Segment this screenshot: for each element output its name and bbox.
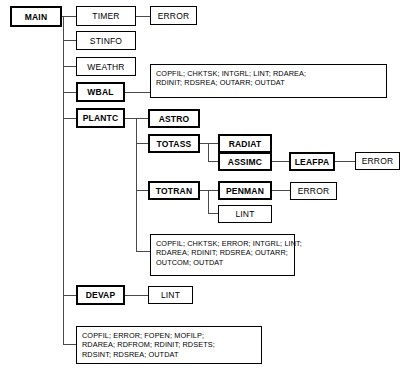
- utility-list-plantc-line-1: COPFIL; CHKTSK; ERROR; INTGRL; LINT;: [156, 239, 294, 248]
- connector-subbranch-to-radiat: [208, 143, 218, 144]
- utility-list-main-line-2: RDAREA; RDFROM; RDINIT; RDSETS;: [82, 340, 261, 349]
- node-lint-totran[interactable]: LINT: [218, 205, 272, 223]
- utility-list-main: COPFIL; ERROR; FOPEN; MOFILP; RDAREA; RD…: [76, 326, 262, 364]
- utility-list-plantc: COPFIL; CHKTSK; ERROR; INTGRL; LINT; RDA…: [150, 234, 295, 276]
- connector-trunk-to-wbal: [63, 92, 76, 93]
- utility-list-wbal-line-1: COPFIL; CHKTSK; INTGRL; LINT; RDAREA;: [156, 69, 386, 78]
- node-error-leafpa[interactable]: ERROR: [355, 152, 400, 170]
- node-leafpa[interactable]: LEAFPA: [289, 152, 335, 171]
- node-devap[interactable]: DEVAP: [76, 285, 125, 305]
- node-wbal[interactable]: WBAL: [76, 82, 125, 102]
- node-error-timer[interactable]: ERROR: [150, 6, 197, 25]
- connector-trunk-to-devap: [63, 295, 76, 296]
- connector-wbal-to-utilities: [125, 92, 150, 93]
- utility-list-wbal: COPFIL; CHKTSK; INTGRL; LINT; RDAREA; RD…: [150, 64, 387, 98]
- node-assimc[interactable]: ASSIMC: [218, 152, 272, 171]
- connector-subbranch-to-penman: [208, 190, 218, 191]
- node-weathr[interactable]: WEATHR: [76, 57, 136, 76]
- utility-list-wbal-line-2: RDINIT; RDSREA; OUTARR; OUTDAT: [156, 78, 386, 87]
- node-astro[interactable]: ASTRO: [148, 109, 200, 128]
- connector-subbranch-to-lint1: [208, 213, 218, 214]
- node-error-penman[interactable]: ERROR: [290, 182, 337, 200]
- connector-branch-to-astro: [136, 118, 148, 119]
- node-lint-devap[interactable]: LINT: [148, 286, 193, 304]
- connector-branch-to-totran: [136, 190, 148, 191]
- connector-trunk-to-stinfo: [63, 40, 76, 41]
- connector-penman-to-error: [272, 190, 290, 191]
- connector-trunk-to-weathr: [63, 66, 76, 67]
- connector-assimc-to-leafpa: [272, 161, 289, 162]
- node-stinfo[interactable]: STINFO: [76, 31, 136, 50]
- node-totran[interactable]: TOTRAN: [148, 181, 200, 200]
- utility-list-main-line-3: RDSINT; RDSREA; OUTDAT: [82, 350, 261, 359]
- connector-trunk-to-plantc: [63, 118, 76, 119]
- connector-timer-to-error: [136, 16, 150, 17]
- connector-totass-subtrunk: [208, 143, 209, 162]
- connector-subbranch-to-assimc: [208, 161, 218, 162]
- connector-trunk-to-main-utilities: [63, 344, 76, 345]
- connector-main-to-trunk: [62, 16, 76, 17]
- connector-devap-to-lint: [125, 295, 148, 296]
- node-radiat[interactable]: RADIAT: [218, 134, 272, 153]
- node-totass[interactable]: TOTASS: [148, 134, 200, 153]
- node-plantc[interactable]: PLANTC: [76, 108, 125, 128]
- utility-list-plantc-line-3: OUTCOM; OUTDAT: [156, 258, 294, 267]
- node-penman[interactable]: PENMAN: [218, 181, 272, 200]
- connector-leafpa-to-error: [335, 161, 355, 162]
- connector-branch-to-plantc-utilities: [136, 251, 150, 252]
- call-hierarchy-diagram: MAIN TIMER ERROR STINFO WEATHR WBAL PLAN…: [0, 0, 407, 368]
- utility-list-plantc-line-2: RDAREA; RDINIT; RDSREA; OUTARR;: [156, 248, 294, 257]
- utility-list-main-line-1: COPFIL; ERROR; FOPEN; MOFILP;: [82, 331, 261, 340]
- connector-branch-to-totass: [136, 143, 148, 144]
- connector-plantc-branch-trunk: [136, 118, 137, 251]
- node-timer[interactable]: TIMER: [76, 6, 136, 26]
- node-main[interactable]: MAIN: [10, 6, 62, 27]
- connector-totran-subtrunk: [208, 190, 209, 213]
